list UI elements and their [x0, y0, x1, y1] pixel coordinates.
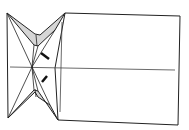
bottom-flap-shaded	[8, 90, 58, 120]
left-edge	[7, 13, 8, 118]
fold-arrow-top-icon	[41, 53, 49, 59]
origami-diagram	[0, 0, 189, 130]
top-diagonals-2	[32, 45, 38, 67]
top-flap-shaded	[7, 13, 65, 46]
bottom-diagonals-2	[32, 67, 38, 91]
fold-arrow-bottom-icon	[42, 76, 47, 82]
bottom-diagonals	[8, 67, 32, 118]
top-diagonals	[7, 13, 32, 67]
